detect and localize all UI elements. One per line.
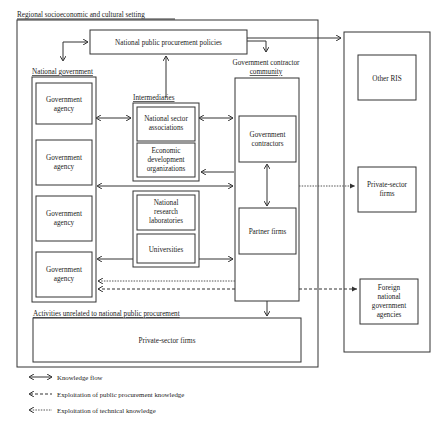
- arrow-policies-contractors: [247, 41, 266, 52]
- intermediaries-header: Intermediaries: [133, 94, 175, 102]
- contractor-community-header-2: community: [250, 68, 283, 76]
- arrow-gov-policies: [63, 42, 88, 60]
- national-government-header: National government: [32, 68, 93, 76]
- economic-development-label: Economic: [151, 147, 180, 155]
- legend-knowledge-flow: Knowledge flow: [57, 374, 103, 381]
- svg-text:National sectorassociations: National sectorassociations: [144, 115, 188, 132]
- legend-procurement-knowledge: Exploitation of public procurement knowl…: [57, 391, 184, 398]
- policies-box-label: National public procurement policies: [115, 39, 222, 47]
- contractor-community-header-1: Government contractor: [233, 59, 300, 67]
- svg-text:Economicdevelopmentorganizatio: Economicdevelopmentorganizations: [147, 147, 186, 173]
- unrelated-activities-header: Activities unrelated to national public …: [33, 310, 180, 318]
- legend-technical-knowledge: Exploitation of technical knowledge: [57, 407, 156, 414]
- national-sector-associations-label: National sector: [144, 115, 188, 123]
- svg-text:Governmentcontractors: Governmentcontractors: [250, 131, 286, 148]
- foreign-agencies-label: Foreign: [378, 284, 401, 292]
- regional-setting-label: Regional socioeconomic and cultural sett…: [17, 11, 145, 19]
- universities-label: Universities: [149, 246, 184, 254]
- legend: Knowledge flow Exploitation of public pr…: [30, 374, 184, 414]
- agency-list: Governmentagency Governmentagency Govern…: [36, 83, 92, 297]
- diagram-canvas: Regional socioeconomic and cultural sett…: [0, 0, 444, 432]
- national-research-labs-label: National: [154, 199, 179, 207]
- other-ris-label: Other RIS: [372, 75, 401, 83]
- partner-firms-label: Partner firms: [249, 228, 287, 236]
- government-contractors-box: [239, 116, 296, 162]
- agency-label-1: Government: [46, 96, 82, 104]
- external-private-sector-label: Private-sector: [367, 181, 408, 189]
- unrelated-private-sector-label: Private-sector firms: [139, 337, 196, 345]
- government-contractors-label: Government: [250, 131, 286, 139]
